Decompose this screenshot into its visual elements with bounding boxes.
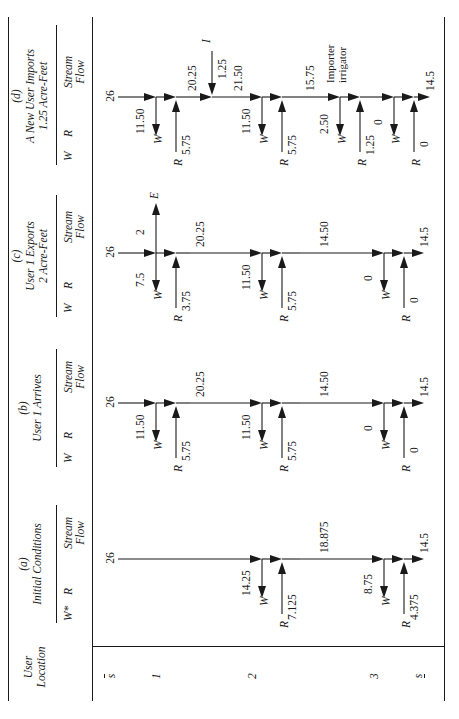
importer-irrigator-annotation: Importer irrigator (324, 13, 348, 83)
water-allocation-figure: User Location (a) Initial Conditions (b)… (0, 0, 459, 719)
stream-diagram-d (0, 0, 459, 719)
rotated-figure-wrapper: User Location (a) Initial Conditions (b)… (0, 0, 459, 719)
node-d-zero-r-value: 0 (418, 141, 430, 147)
node-d-3-w-value: 2.50 (318, 114, 330, 134)
node-d-2-r-label: R (278, 159, 290, 166)
import-symbol-d: I (200, 39, 212, 43)
node-d-2-r-value: 5.75 (286, 135, 298, 155)
node-d-zero-w-value: 0 (372, 119, 384, 125)
node-d-zero-r-label: R (410, 159, 422, 166)
node-d-1-r-label: R (172, 159, 184, 166)
midflow1-value-d: 20.25 (186, 41, 198, 91)
outflow-value-d: 14.5 (424, 45, 436, 91)
node-d-1-w-value: 11.50 (134, 109, 146, 134)
node-d-3-w-label: W (336, 134, 348, 144)
node-d-2-w-label: W (258, 134, 270, 144)
importer-irrigator-line1: Importer (324, 13, 336, 83)
midflow-after-import-d: 21.50 (232, 41, 244, 91)
inflow-value-d: 26 (104, 76, 116, 116)
node-d-1-w-label: W (152, 134, 164, 144)
node-d-1-r-value: 5.75 (180, 135, 192, 155)
node-d-3-r-value: 1.25 (364, 135, 376, 155)
import-value-d: 1.25 (216, 59, 228, 79)
node-d-3-r-label: R (356, 159, 368, 166)
importer-irrigator-line2: irrigator (336, 13, 348, 83)
node-d-2-w-value: 11.50 (240, 109, 252, 134)
midflow2-value-d: 15.75 (304, 41, 316, 91)
node-d-zero-w-label: W (390, 134, 402, 144)
